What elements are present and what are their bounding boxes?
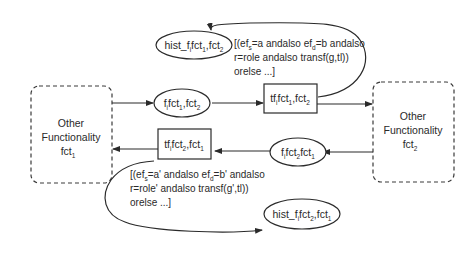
guard-bottom-line1: [(efs=a' andalso efd=b' andalso [130,169,265,182]
right-block-line1: Other [400,110,427,122]
transition-tf-fct2-fct1: tfifct2,fct1 [158,129,211,159]
guard-bottom: [(efs=a' andalso efd=b' andalso r=role' … [130,169,265,208]
guard-bottom-line2: r=role' andalso transf(g',tl)) [130,183,249,194]
other-functionality-fct2-block: Other Functionality fct2 [373,82,454,182]
place-f-fct1-fct2-label: fifct1,fct2 [164,97,201,111]
place-f-fct2-fct1: fifct2fct1 [270,138,326,166]
left-block-line3: fct1 [61,145,76,159]
place-hist-fct1-fct2: hist_fifct1,fct2 [156,31,232,59]
place-hist-fct2-fct1-label: hist_fifct2,fct1 [273,208,332,222]
left-block-line2: Functionality [42,131,102,143]
guard-top: [(efs=a andalso efd=b andalso r=role and… [234,38,365,77]
place-f-fct1-fct2: fifct1,fct2 [154,89,210,117]
right-block-line3: fct2 [403,138,418,152]
guard-top-line2: r=role andalso transf(g,tl)) [234,52,349,63]
petri-net-diagram: Other Functionality fct1 Other Functiona… [0,0,476,253]
place-hist-fct1-fct2-label: hist_fifct1,fct2 [165,39,224,53]
right-block-line2: Functionality [384,124,444,136]
guard-top-line1: [(efs=a andalso efd=b andalso [234,38,365,51]
transition-tf-fct1-fct2: tfifct1,fct2 [264,84,317,113]
guard-bottom-line3: orelse ...] [130,197,171,208]
place-hist-fct2-fct1: hist_fifct2,fct1 [264,199,340,229]
other-functionality-fct1-block: Other Functionality fct1 [31,86,112,183]
guard-top-line3: orelse ...] [234,66,275,77]
left-block-line1: Other [58,117,85,129]
